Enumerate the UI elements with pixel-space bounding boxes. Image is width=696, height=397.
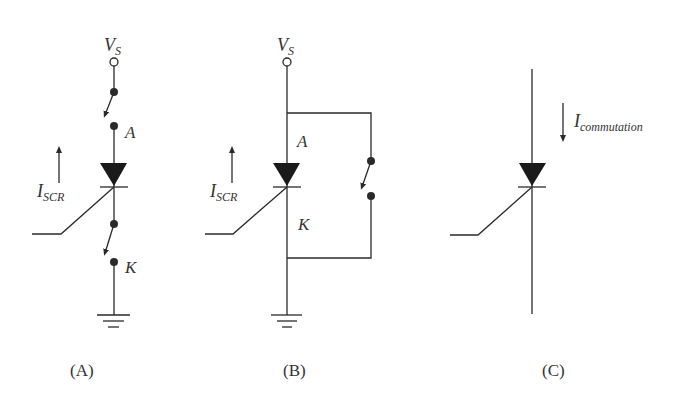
current-label: ISCR — [36, 181, 65, 204]
caption-b: (B) — [283, 361, 306, 380]
switch-anode-icon — [105, 88, 118, 130]
anode-label: A — [124, 123, 136, 142]
ground-icon — [271, 315, 302, 327]
switch-cathode-icon — [105, 220, 118, 266]
panel-a: VS A ISCR K (A) — [32, 35, 138, 380]
cathode-label: K — [124, 258, 138, 277]
cathode-label: K — [297, 215, 311, 234]
supply-voltage-label: VS — [277, 35, 294, 58]
current-label: ISCR — [209, 181, 238, 204]
panel-c: Icommutation (C) — [450, 69, 643, 380]
ground-icon — [97, 315, 130, 327]
caption-c: (C) — [542, 361, 565, 380]
current-label: Icommutation — [573, 111, 643, 134]
supply-terminal-icon — [283, 58, 291, 66]
caption-a: (A) — [70, 361, 94, 380]
switch-bypass-icon — [362, 157, 375, 200]
supply-voltage-label: VS — [104, 35, 121, 58]
panel-b: VS A K ISCR (B) — [205, 35, 375, 380]
supply-terminal-icon — [110, 58, 118, 66]
anode-label: A — [296, 132, 308, 151]
